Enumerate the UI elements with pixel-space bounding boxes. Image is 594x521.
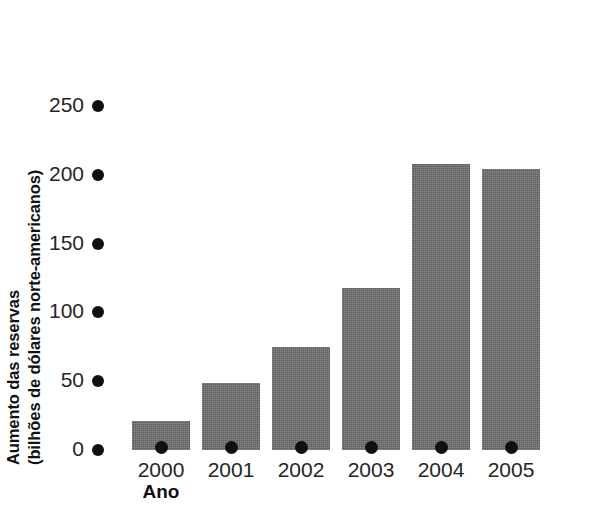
y-axis-title: Aumento das reservas (bilhões de dólares…: [0, 0, 52, 521]
bar-slot: 2001: [202, 106, 260, 450]
x-axis-tick-label: 2002: [266, 458, 336, 482]
bar[interactable]: [412, 164, 470, 450]
x-axis-tick-marker-dot: [295, 441, 308, 454]
x-axis-tick-marker-dot: [365, 441, 378, 454]
x-axis-tick-label: 2004: [406, 458, 476, 482]
bar[interactable]: [202, 383, 260, 450]
bar[interactable]: [272, 347, 330, 450]
x-axis-tick-label: 2001: [196, 458, 266, 482]
bar-slot: 2003: [342, 106, 400, 450]
y-axis-tick-marker-dot: [92, 444, 104, 456]
bar[interactable]: [342, 288, 400, 450]
y-axis-tick-marker-dot: [92, 100, 104, 112]
y-axis-tick-label: 0: [72, 437, 84, 461]
bar-group: 200020012002200320042005: [132, 106, 576, 450]
y-axis-tick-marker-dot: [92, 375, 104, 387]
bar-chart: Aumento das reservas (bilhões de dólares…: [0, 0, 594, 521]
x-axis-tick-marker-dot: [155, 441, 168, 454]
y-axis-tick-marker-dot: [92, 306, 104, 318]
y-axis-tick-marker-dot: [92, 238, 104, 250]
x-axis-title: Ano: [132, 481, 190, 503]
bar-slot: 2002: [272, 106, 330, 450]
y-axis-title-line-1: Aumento das reservas: [4, 290, 23, 465]
y-axis-tick-label: 200: [49, 162, 84, 186]
bar-slot: 2004: [412, 106, 470, 450]
x-axis-tick-marker-dot: [435, 441, 448, 454]
x-axis-tick-label: 2005: [476, 458, 546, 482]
y-axis-tick-marker-dot: [92, 169, 104, 181]
x-axis-tick-marker-dot: [225, 441, 238, 454]
y-axis-tick-label: 100: [49, 299, 84, 323]
plot-area: 050100150200250 200020012002200320042005: [104, 106, 576, 450]
x-axis-tick-label: 2000: [126, 458, 196, 482]
bar-slot: 2005: [482, 106, 540, 450]
y-axis-title-line-2: (bilhões de dólares norte-americanos): [25, 170, 44, 465]
bar[interactable]: [482, 169, 540, 450]
x-axis-tick-label: 2003: [336, 458, 406, 482]
x-axis-tick-marker-dot: [505, 441, 518, 454]
y-axis-tick-label: 50: [61, 368, 84, 392]
y-axis-tick-label: 150: [49, 231, 84, 255]
bar-slot: 2000: [132, 106, 190, 450]
y-axis-tick-label: 250: [49, 93, 84, 117]
